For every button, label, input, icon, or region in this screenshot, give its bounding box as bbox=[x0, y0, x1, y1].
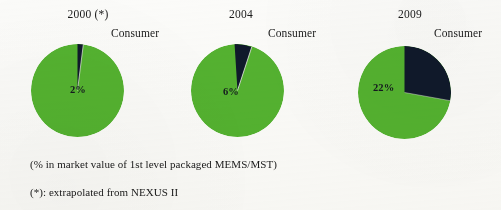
legend-label-consumer-2000: Consumer bbox=[111, 27, 159, 39]
legend-label-consumer-2004: Consumer bbox=[268, 27, 316, 39]
footnote-unit: (% in market value of 1st level packaged… bbox=[30, 158, 277, 170]
data-label-2000: 2% bbox=[70, 84, 86, 95]
panel-year-title-2000: 2000 (*) bbox=[8, 8, 168, 20]
chart-panel-2000: 2000 (*) Consumer 2% bbox=[8, 0, 168, 150]
panel-year-title-2004: 2004 bbox=[162, 8, 320, 20]
chart-panel-2004: 2004 Consumer 6% bbox=[170, 0, 328, 150]
data-label-2004: 6% bbox=[223, 86, 239, 97]
pie-wrap-2009 bbox=[358, 46, 451, 139]
footnote-source: (*): extrapolated from NEXUS II bbox=[30, 186, 178, 198]
legend-label-consumer-2009: Consumer bbox=[434, 27, 482, 39]
data-label-2009: 22% bbox=[373, 82, 394, 93]
chart-panel-2009: 2009 Consumer 22% bbox=[330, 0, 498, 150]
pie-chart-2009 bbox=[358, 46, 451, 139]
pie-chart-figure: 2000 (*) Consumer 2% 2004 Consumer 6% bbox=[0, 0, 501, 210]
panel-year-title-2009: 2009 bbox=[326, 8, 494, 20]
